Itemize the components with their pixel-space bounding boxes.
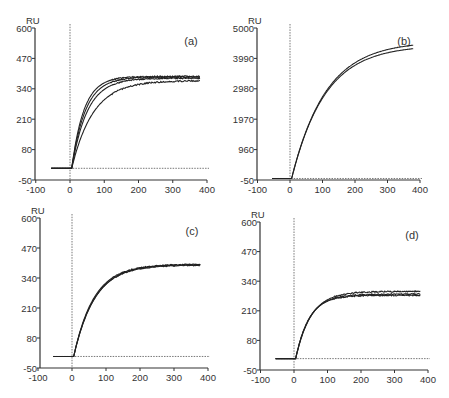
sensorgram-curve: [53, 265, 200, 357]
x-tick-label: 300: [166, 372, 182, 383]
panel-label: (c): [186, 225, 199, 237]
x-tick-label: 0: [69, 372, 74, 383]
y-axis-label: RU: [31, 205, 45, 216]
x-tick-label: 100: [96, 184, 112, 195]
y-tick-label: 80: [26, 333, 37, 344]
y-axis-label: RU: [248, 15, 262, 26]
x-tick-label: 300: [387, 374, 403, 385]
sensorgram-curve: [272, 45, 413, 178]
y-tick-label: 340: [16, 83, 32, 94]
x-tick-label: 100: [315, 184, 331, 195]
y-tick-label: 210: [241, 305, 257, 316]
y-axis-label: RU: [26, 15, 40, 26]
x-tick-label: 200: [131, 184, 147, 195]
chart-panel-d: -5080210340470600-1000100200300400RU(d): [241, 209, 436, 385]
sensorgram-curve: [276, 291, 421, 359]
y-tick-label: 2980: [233, 83, 254, 94]
panel-label: (a): [184, 35, 197, 47]
y-tick-label: 210: [21, 303, 37, 314]
x-tick-label: -100: [248, 184, 267, 195]
sensorgram-curve: [51, 77, 200, 169]
x-tick-label: 400: [412, 184, 428, 195]
y-tick-label: 80: [21, 144, 32, 155]
y-tick-label: 1970: [233, 114, 254, 125]
x-tick-label: -100: [28, 372, 47, 383]
y-tick-label: 80: [246, 335, 257, 346]
y-tick-label: 470: [241, 246, 257, 257]
y-tick-label: 3990: [233, 53, 254, 64]
x-tick-label: -100: [26, 184, 45, 195]
y-tick-label: 960: [238, 144, 254, 155]
x-tick-label: 100: [320, 374, 336, 385]
x-tick-label: 200: [353, 374, 369, 385]
x-tick-label: 100: [98, 372, 114, 383]
x-tick-label: 0: [67, 184, 72, 195]
x-tick-label: 400: [199, 184, 215, 195]
x-tick-label: 300: [165, 184, 181, 195]
sensorgram-curve: [276, 294, 421, 359]
x-tick-label: -100: [251, 374, 270, 385]
chart-panel-b: -509601970298039905000-1000100200300400R…: [233, 15, 428, 195]
y-tick-label: 340: [241, 276, 257, 287]
x-tick-label: 200: [132, 372, 148, 383]
y-tick-label: 210: [16, 114, 32, 125]
y-axis-label: RU: [251, 209, 265, 220]
y-tick-label: 470: [16, 53, 32, 64]
x-tick-label: 300: [380, 184, 396, 195]
x-tick-label: 400: [200, 372, 216, 383]
sensorgram-curve: [53, 264, 200, 357]
sensorgram-figure: -5080210340470600-1000100200300400RU(a) …: [0, 0, 449, 398]
x-tick-label: 400: [420, 374, 436, 385]
panel-label: (d): [405, 229, 418, 241]
x-tick-label: 200: [347, 184, 363, 195]
sensorgram-curve: [276, 295, 421, 359]
y-tick-label: 340: [21, 273, 37, 284]
sensorgram-curve: [53, 264, 200, 356]
chart-panel-a: -5080210340470600-1000100200300400RU(a): [16, 15, 215, 195]
y-tick-label: 470: [21, 243, 37, 254]
x-tick-label: 0: [291, 374, 296, 385]
chart-panel-c: -5080210340470600-1000100200300400RU(c): [21, 205, 216, 383]
x-tick-label: 0: [287, 184, 292, 195]
sensorgram-curve: [272, 49, 413, 179]
